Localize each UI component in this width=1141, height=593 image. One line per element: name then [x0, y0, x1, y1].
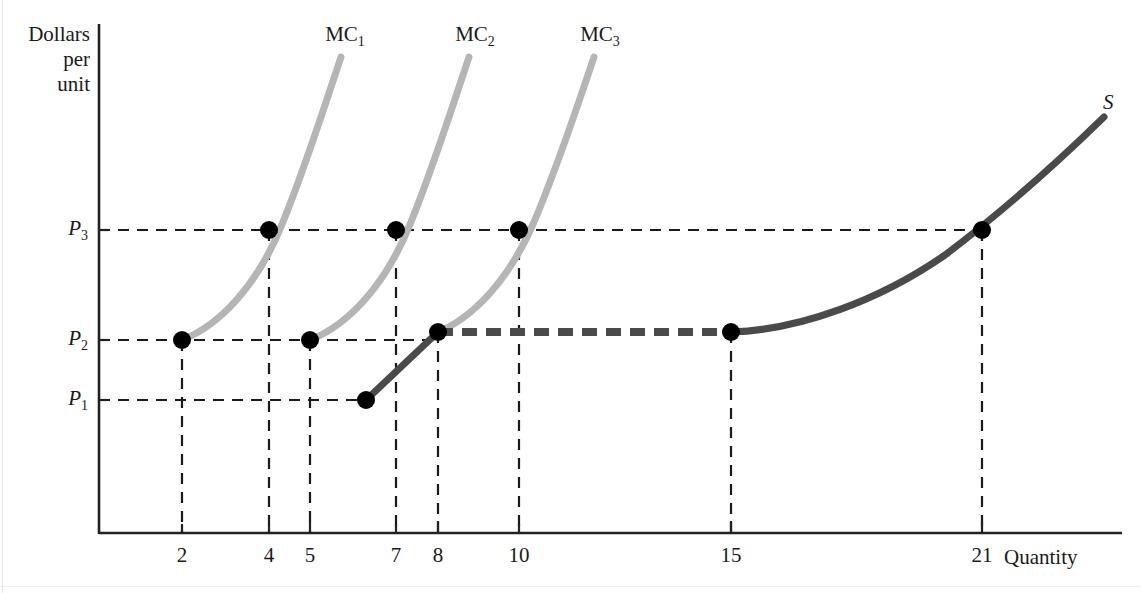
point-q7-p3	[387, 221, 405, 239]
point-q4-p3	[260, 221, 278, 239]
point-q10-p3	[510, 221, 528, 239]
supply-segment-rising-low	[366, 332, 438, 400]
y-axis-title-line-3: unit	[10, 72, 90, 97]
supply-curve-figure: Dollars per unit Quantity P1 P2 P3 2 4 5…	[0, 0, 1141, 593]
marginal-cost-curves	[182, 57, 594, 340]
curve-label-mc1-sub: 1	[358, 34, 365, 49]
curve-label-mc2-base: MC	[455, 22, 488, 46]
curve-label-mc1: MC1	[325, 22, 365, 50]
curve-label-mc2: MC2	[455, 22, 495, 50]
quantity-drop-lines	[182, 230, 982, 533]
point-q8-p2	[429, 323, 447, 341]
y-axis-title-line-1: Dollars	[10, 22, 90, 47]
price-label-p3: P3	[68, 216, 88, 244]
price-label-p1: P1	[68, 386, 88, 414]
price-label-p2: P2	[68, 326, 88, 354]
y-axis-ticks	[99, 230, 108, 400]
x-tick-label-4: 4	[264, 543, 275, 568]
x-tick-label-10: 10	[509, 543, 530, 568]
point-q2-p2	[173, 331, 191, 349]
price-label-p2-base: P	[68, 326, 81, 350]
price-label-p3-sub: 3	[81, 228, 88, 243]
curve-label-s: S	[1103, 90, 1114, 115]
chart-canvas	[0, 0, 1141, 593]
price-guide-lines	[99, 230, 982, 400]
mc3-curve	[438, 57, 594, 332]
x-axis-title: Quantity	[1004, 545, 1078, 570]
x-axis-ticks	[182, 521, 982, 533]
supply-segment-rising-high	[731, 117, 1104, 332]
price-label-p3-base: P	[68, 216, 81, 240]
point-q6-p1	[357, 391, 375, 409]
point-q15-p2	[722, 323, 740, 341]
mc1-curve	[182, 57, 341, 340]
curve-label-mc2-sub: 2	[488, 34, 495, 49]
x-tick-label-8: 8	[433, 543, 444, 568]
mc2-curve	[310, 57, 469, 340]
x-tick-label-5: 5	[305, 543, 316, 568]
x-tick-label-7: 7	[391, 543, 402, 568]
price-label-p2-sub: 2	[81, 338, 88, 353]
x-tick-label-15: 15	[721, 543, 742, 568]
point-q21-p3	[973, 221, 991, 239]
y-axis-title: Dollars per unit	[10, 22, 90, 97]
y-axis-title-line-2: per	[10, 47, 90, 72]
curve-label-mc3-sub: 3	[613, 34, 620, 49]
curve-label-mc3-base: MC	[580, 22, 613, 46]
x-tick-label-2: 2	[177, 543, 188, 568]
industry-supply-curve	[366, 117, 1104, 400]
curve-label-mc1-base: MC	[325, 22, 358, 46]
price-label-p1-base: P	[68, 386, 81, 410]
price-label-p1-sub: 1	[81, 398, 88, 413]
x-tick-label-21: 21	[972, 543, 993, 568]
data-points	[173, 221, 991, 409]
curve-label-mc3: MC3	[580, 22, 620, 50]
point-q5-p2	[301, 331, 319, 349]
